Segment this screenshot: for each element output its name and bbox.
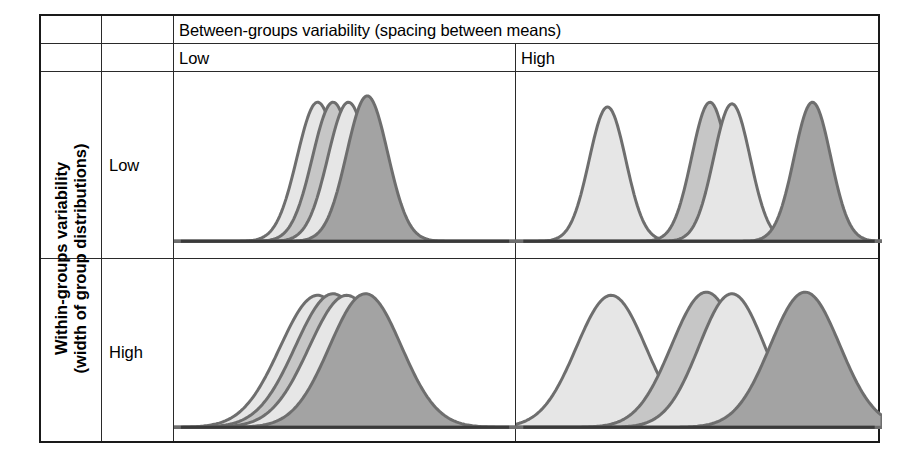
- variability-matrix-figure: Between-groups variability (spacing betw…: [39, 14, 880, 443]
- header-column-high: High: [516, 44, 878, 72]
- header-title: Between-groups variability (spacing betw…: [174, 16, 878, 44]
- side-axis-label-line1: Within-groups variability: [52, 143, 71, 373]
- distribution-plot: [516, 259, 882, 445]
- header-column-low: Low: [174, 44, 521, 72]
- panel-within-high-between-low: [174, 259, 516, 445]
- panel-within-high-between-high: [516, 259, 882, 445]
- panel-within-low-between-high: [516, 72, 882, 259]
- distribution-plot: [516, 72, 882, 259]
- side-axis-label: Within-groups variability (width of grou…: [41, 72, 102, 445]
- distribution-plot: [174, 72, 516, 259]
- panel-within-low-between-low: [174, 72, 516, 259]
- row-label-low: Low: [102, 72, 174, 259]
- row-label-high: High: [102, 259, 174, 445]
- side-axis-label-line2: (width of group distributions): [72, 143, 91, 373]
- distribution-curve-dark: [174, 294, 516, 428]
- distribution-plot: [174, 259, 516, 445]
